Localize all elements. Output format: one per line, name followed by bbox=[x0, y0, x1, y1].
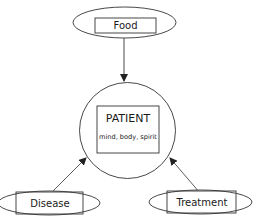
node-food: Food bbox=[73, 7, 176, 38]
node-treatment: Treatment bbox=[149, 190, 252, 214]
disease-label: Disease bbox=[30, 198, 69, 209]
patient-subtitle: mind, body, spirit bbox=[99, 133, 157, 141]
patient-title: PATIENT bbox=[106, 112, 151, 125]
patient-diagram: Food PATIENT mind, body, spirit Disease … bbox=[0, 0, 259, 224]
edge-disease-to-patient bbox=[51, 158, 86, 193]
node-patient: PATIENT mind, body, spirit bbox=[80, 83, 176, 179]
node-disease: Disease bbox=[0, 191, 100, 215]
food-label: Food bbox=[114, 20, 138, 31]
edge-treatment-to-patient bbox=[170, 158, 200, 193]
treatment-label: Treatment bbox=[176, 197, 228, 208]
